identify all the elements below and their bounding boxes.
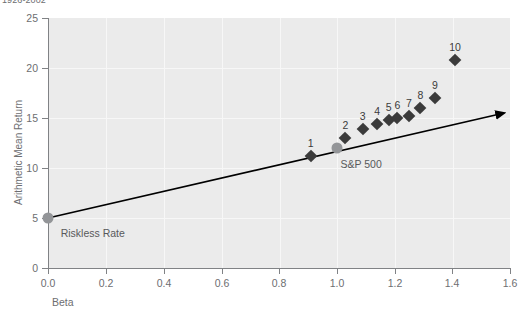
gridline-horizontal (48, 168, 510, 169)
chart-title: 1926-2002 (2, 0, 46, 5)
data-point-marker (43, 213, 54, 224)
y-axis-tick (42, 18, 48, 19)
gridline-horizontal (48, 68, 510, 69)
data-point-label: 4 (374, 105, 380, 117)
x-axis-tick (452, 268, 453, 274)
x-axis-label: Beta (52, 296, 74, 308)
x-axis-tick (48, 268, 49, 274)
y-axis-line (48, 18, 49, 268)
gridline-vertical (395, 18, 396, 268)
gridline-vertical (280, 18, 281, 268)
x-axis-tick-label: 0.2 (86, 277, 126, 289)
sp500-annotation: S&P 500 (341, 158, 382, 170)
x-axis-tick-label: 0.4 (144, 277, 184, 289)
y-axis-tick-label: 25 (12, 13, 38, 23)
x-axis-tick (395, 268, 396, 274)
x-axis-tick-label: 0.8 (259, 277, 299, 289)
data-point-label: 10 (449, 41, 461, 53)
x-axis-tick-label: 1.0 (317, 277, 357, 289)
data-point-label: 2 (342, 119, 348, 131)
data-point-label: 1 (308, 137, 314, 149)
gridline-horizontal (48, 118, 510, 119)
x-axis-tick (279, 268, 280, 274)
y-axis-tick-label: 0 (12, 263, 38, 273)
y-axis-tick-label: 20 (12, 63, 38, 73)
data-point-label: 3 (360, 110, 366, 122)
data-point-label: 9 (432, 79, 438, 91)
x-axis-tick-label: 1.2 (375, 277, 415, 289)
data-point-label: 6 (394, 99, 400, 111)
riskless-rate-annotation: Riskless Rate (61, 227, 125, 239)
y-axis-tick (42, 118, 48, 119)
x-axis-tick-label: 0.6 (202, 277, 242, 289)
x-axis-tick (337, 268, 338, 274)
y-axis-tick-label: 5 (12, 213, 38, 223)
data-point-label: 5 (386, 101, 392, 113)
gridline-horizontal (48, 218, 510, 219)
y-axis-label: Arithmetic Mean Return (13, 100, 24, 205)
x-axis-tick-label: 1.4 (432, 277, 472, 289)
x-axis-tick (222, 268, 223, 274)
data-point-marker (331, 143, 342, 154)
data-point-label: 7 (406, 97, 412, 109)
data-point-label: 8 (418, 89, 424, 101)
gridline-vertical (222, 18, 223, 268)
x-axis-tick (164, 268, 165, 274)
gridline-vertical (164, 18, 165, 268)
y-axis-tick (42, 168, 48, 169)
x-axis-tick-label: 0.0 (28, 277, 68, 289)
y-axis-tick (42, 68, 48, 69)
x-axis-tick-label: 1.6 (490, 277, 522, 289)
x-axis-tick (106, 268, 107, 274)
x-axis-tick (510, 268, 511, 274)
